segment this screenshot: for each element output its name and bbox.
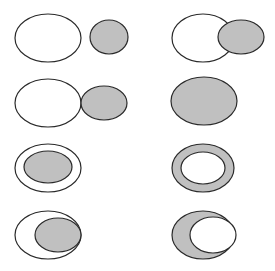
panel-r4-right-internally-tangent-crescent	[172, 211, 236, 259]
ellipse-relations-diagram	[0, 0, 275, 271]
region-b-ellipse	[218, 20, 264, 54]
region-b-ellipse	[90, 20, 128, 54]
inner-ellipse	[24, 151, 72, 183]
inner-ellipse	[190, 217, 236, 253]
panel-r3-right-inside-ring	[172, 144, 234, 192]
region-a-ellipse	[171, 77, 237, 125]
region-a-ellipse	[15, 14, 81, 62]
region-b-ellipse	[81, 86, 127, 120]
inner-ellipse	[35, 218, 81, 252]
panel-r1-left-disjoint	[15, 14, 128, 62]
panel-r3-left-contains-inside	[15, 144, 81, 192]
panel-r1-right-overlap	[172, 14, 264, 62]
panel-r2-left-externally-tangent	[15, 79, 127, 127]
panel-r4-left-contains-internally-tangent	[15, 211, 81, 259]
panel-r2-right-equal	[171, 77, 237, 125]
inner-ellipse	[181, 152, 225, 184]
region-a-ellipse	[15, 79, 81, 127]
